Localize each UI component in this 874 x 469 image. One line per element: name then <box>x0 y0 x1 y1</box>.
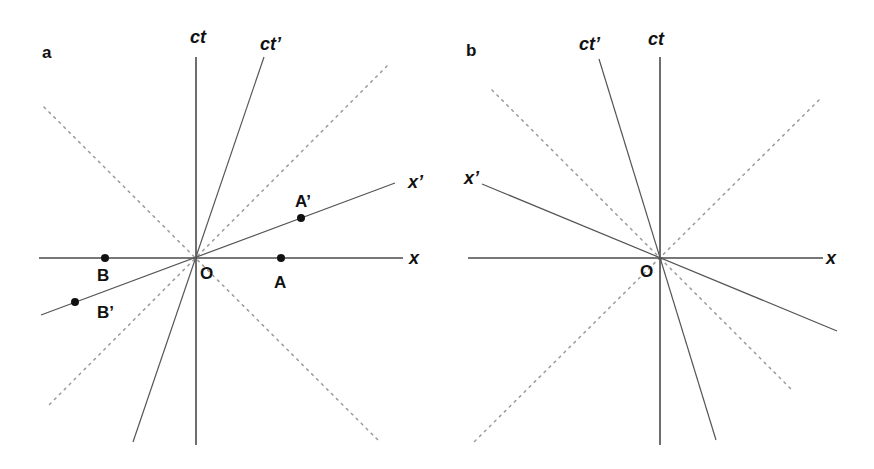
point-a-prime <box>297 214 305 222</box>
ct-prime-axis-a <box>133 57 264 442</box>
light-line-b-1 <box>492 90 791 389</box>
point-a-label: A <box>274 273 286 292</box>
panel-label-a: a <box>42 43 52 62</box>
x-prime-label-b: x’ <box>463 168 480 188</box>
ct-label-a: ct <box>190 27 207 47</box>
x-label-b: x <box>825 248 837 268</box>
x-prime-axis-a <box>41 183 395 315</box>
light-line-a-2 <box>47 66 387 407</box>
x-prime-label-a: x’ <box>407 172 424 192</box>
origin-label-a: O <box>200 264 213 283</box>
point-b-prime-label: B’ <box>97 303 114 322</box>
origin-label-b: O <box>640 262 653 281</box>
ct-prime-axis-b <box>599 59 716 440</box>
point-a <box>277 254 285 262</box>
point-b <box>101 254 109 262</box>
point-b-label: B <box>97 266 109 285</box>
panel-a: a ct ct’ x’ x O B A A’ B’ <box>39 27 424 445</box>
point-b-prime <box>71 298 79 306</box>
point-a-prime-label: A’ <box>295 192 311 211</box>
panel-label-b: b <box>466 41 476 60</box>
ct-prime-label-b: ct’ <box>579 34 601 54</box>
ct-prime-label-a: ct’ <box>260 34 282 54</box>
spacetime-diagrams: a ct ct’ x’ x O B A A’ B’ b ct ct’ x’ x … <box>0 0 874 469</box>
x-label-a: x <box>408 248 420 268</box>
panel-b: b ct ct’ x’ x O <box>463 29 837 445</box>
ct-label-b: ct <box>648 29 665 49</box>
